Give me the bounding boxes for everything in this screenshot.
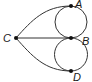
edge-c-d	[16, 38, 71, 71]
graph-diagram: A B C D	[0, 0, 92, 82]
node-c	[14, 36, 18, 40]
label-c: C	[3, 32, 11, 44]
label-b: B	[82, 35, 89, 47]
loop-a-b	[55, 6, 87, 38]
node-a	[69, 4, 73, 8]
edge-c-a	[16, 6, 71, 38]
node-b	[69, 36, 73, 40]
label-d: D	[73, 71, 81, 82]
label-a: A	[74, 0, 82, 10]
